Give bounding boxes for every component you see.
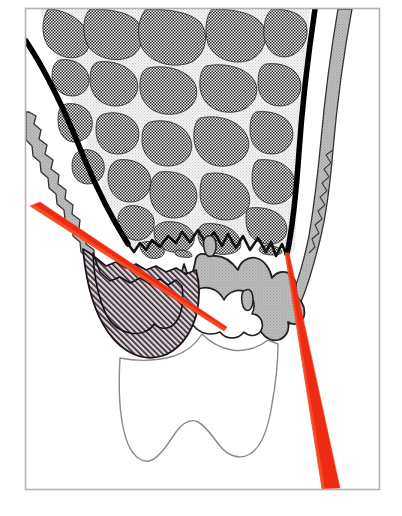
tissue-islet-upper [204, 235, 216, 256]
tissue-islet-lower [242, 289, 253, 310]
anatomy-illustration [0, 0, 402, 516]
figure-root [0, 0, 402, 516]
